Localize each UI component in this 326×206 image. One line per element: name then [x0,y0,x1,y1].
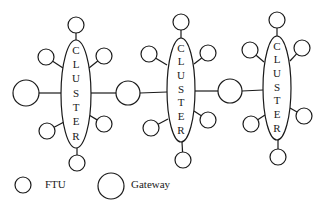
ftu-link [156,58,167,65]
ftu-link [53,61,63,68]
ftu-link [182,142,183,152]
legend-ftu-symbol [15,177,31,193]
legend: FTU Gateway [15,173,171,199]
ftu-node-lower-left [143,120,159,136]
gateway-node [13,80,39,106]
ftu-node-upper-right [294,40,310,56]
cluster-label-letter: S [73,87,79,99]
legend-gateway-symbol [98,173,124,199]
ftu-link [54,122,64,127]
ftu-node-bottom [69,155,85,171]
cluster-label-letter: E [178,110,185,122]
ftu-link [258,115,265,120]
ftu-node-upper-left [38,49,54,65]
ftu-node-upper-right [96,48,112,64]
cluster-label-letter: C [273,40,280,52]
cluster-label-letter: E [73,115,80,127]
ftu-node-upper-left [242,42,258,58]
ftu-link [290,54,297,61]
cluster-label-letter: U [273,67,281,79]
ftu-node-top [68,17,84,33]
legend-gateway-label: Gateway [131,178,171,190]
ftu-link [290,108,297,112]
cluster-label-letter: R [72,130,80,142]
ftu-node-bottom [270,149,286,165]
cluster-label-letter: L [274,53,281,65]
cluster-label-letter: E [274,108,281,120]
ftu-link [194,111,201,116]
cluster-label-letter: R [273,122,281,134]
ftu-link [256,55,264,62]
ftu-node-top [269,12,285,28]
gateway-node [116,81,140,105]
ftu-node-lower-right [96,116,112,132]
ftu-node-upper-left [141,46,157,62]
ftu-node-lower-left [243,116,259,132]
cluster: CLUSTER [38,17,112,171]
cluster-label-letter: C [177,42,184,54]
gateway-node [218,79,242,103]
cluster-label-letter: L [178,55,185,67]
cluster-label-letter: S [274,81,280,93]
cluster-label-letter: R [177,124,185,136]
ftu-node-top [173,14,189,30]
cluster-label-letter: C [72,44,79,56]
legend-ftu-label: FTU [45,178,66,190]
nodes-layer: CLUSTERCLUSTERCLUSTER [13,12,312,171]
gateway-link [242,90,263,91]
gateway-link [140,92,167,93]
ftu-node-upper-right [200,45,216,61]
cluster-label-letter: U [177,69,185,81]
cluster-label-letter: T [73,101,80,113]
cluster-label-letter: T [274,94,281,106]
ftu-node-lower-right [200,112,216,128]
cluster-label-letter: L [73,58,80,70]
cluster-network-diagram: CLUSTERCLUSTERCLUSTER FTU Gateway [0,0,326,206]
ftu-link [158,119,168,124]
ftu-link [194,58,202,64]
ftu-node-lower-left [39,123,55,139]
cluster-label-letter: T [178,96,185,108]
ftu-link [89,61,98,68]
ftu-node-bottom [175,152,191,168]
cluster-label-letter: S [178,83,184,95]
ftu-node-lower-right [296,108,312,124]
cluster-label-letter: U [72,72,80,84]
